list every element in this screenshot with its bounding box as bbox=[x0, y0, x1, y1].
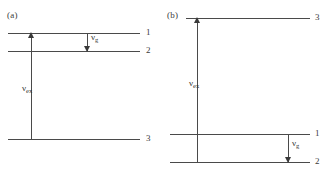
panel-b-level-3-line bbox=[186, 18, 310, 19]
panel-a-emission-arrow-head-down-icon bbox=[84, 46, 90, 52]
panel-b-level-1-number: 1 bbox=[315, 129, 320, 138]
panel-a-level-3-number: 3 bbox=[146, 134, 151, 143]
panel-b-excitation-subscript: ex bbox=[193, 82, 199, 89]
panel-b-emission-label: νg bbox=[292, 139, 299, 149]
panel-a-excitation-arrow-head-up-icon bbox=[28, 32, 34, 38]
panel-b-excitation-arrow-shaft bbox=[197, 18, 198, 162]
panel-b-excitation-arrow-head-up-icon bbox=[194, 17, 200, 23]
panel-b-level-2-number: 2 bbox=[315, 157, 320, 166]
energy-level-diagram-figure: (a) 1 2 3 νex νg (b) 3 1 2 νex νg bbox=[0, 0, 325, 173]
panel-a-excitation-subscript: ex bbox=[26, 87, 32, 94]
panel-b-excitation-label: νex bbox=[189, 79, 199, 89]
panel-b-emission-arrow-head-down-icon bbox=[285, 157, 291, 163]
panel-a-level-2-line bbox=[8, 51, 140, 52]
panel-a-level-2-number: 2 bbox=[146, 46, 151, 55]
panel-a-emission-subscript: g bbox=[95, 36, 98, 43]
panel-a-label: (a) bbox=[7, 10, 18, 20]
panel-b-level-3-number: 3 bbox=[315, 13, 320, 22]
panel-a-level-3-line bbox=[8, 139, 140, 140]
panel-b-level-1-line bbox=[170, 134, 310, 135]
panel-b-emission-subscript: g bbox=[296, 142, 299, 149]
panel-a-level-1-number: 1 bbox=[146, 28, 151, 37]
panel-a-excitation-label: νex bbox=[22, 84, 32, 94]
panel-a-emission-label: νg bbox=[91, 33, 98, 43]
panel-b-label: (b) bbox=[167, 10, 178, 20]
